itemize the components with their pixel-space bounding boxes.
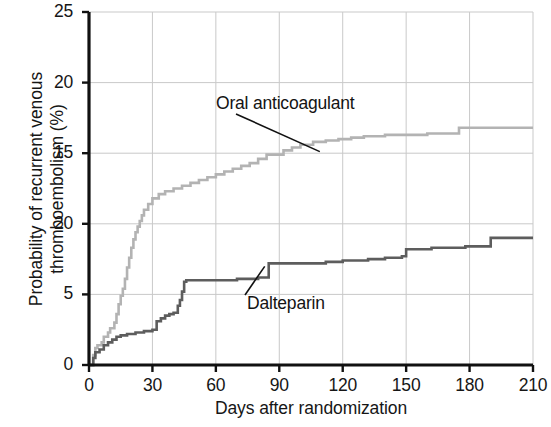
oral-anticoagulant-label: Oral anticoagulant (216, 93, 354, 114)
dalteparin-label: Dalteparin (247, 293, 325, 314)
oral-anticoagulant-leader-line (236, 114, 320, 152)
plot-area (0, 0, 551, 427)
dalteparin-leader-line (245, 266, 265, 295)
chart-figure: Probability of recurrent venous thromboe… (0, 0, 551, 427)
